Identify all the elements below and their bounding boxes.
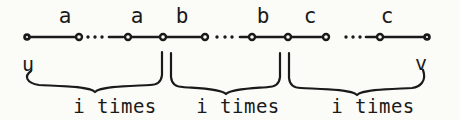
ellipsis-dot [351,35,354,38]
edge-label-b-1: b [176,4,189,28]
edge-label-c-1: c [304,4,317,28]
labels-layer: a a b b c c u v i times i times i times [22,4,427,117]
path-layer [23,33,431,41]
path-node [377,34,383,40]
ellipsis-dot [223,35,226,38]
underbrace-2 [171,53,280,94]
path-endpoint-node-hole [26,36,28,38]
path-node [76,34,82,40]
ellipsis-dot [230,35,233,38]
ellipsis-dot [100,35,103,38]
path-node [160,34,166,40]
edge-label-c-2: c [381,4,394,28]
path-node [202,34,208,40]
ellipsis-dot [358,35,361,38]
edge-label-a-1: a [59,4,72,28]
path-node [249,34,255,40]
ellipsis-dot [344,35,347,38]
endpoint-label-u: u [22,52,34,76]
ellipsis-dot [86,35,89,38]
edge-label-b-2: b [257,4,270,28]
brace-label-3: i times [331,95,415,117]
endpoint-label-v: v [415,51,427,75]
underbrace-3 [289,53,424,95]
edge-label-a-2: a [131,4,144,28]
figure-svg: a a b b c c u v i times i times i times [0,0,459,120]
brace-label-2: i times [196,95,280,117]
path-node [323,34,329,40]
ellipsis-dot [93,35,96,38]
brace-label-1: i times [73,95,157,117]
path-node [125,34,131,40]
path-node [285,34,291,40]
ellipsis-dot [215,35,218,38]
figure: a a b b c c u v i times i times i times [0,0,459,120]
underbrace-1 [27,52,162,92]
brace-layer [27,52,424,95]
path-endpoint-node-hole [426,36,428,38]
